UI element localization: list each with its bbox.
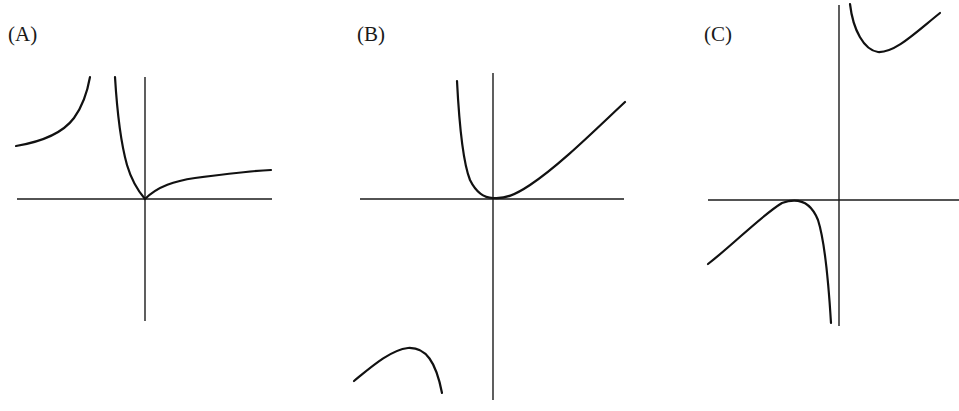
graph-b-upper-branch bbox=[457, 81, 625, 198]
graph-c-lower-branch bbox=[708, 201, 831, 323]
graphs-canvas bbox=[0, 0, 959, 411]
graph-a bbox=[16, 77, 272, 321]
graph-b-lower-branch bbox=[354, 348, 442, 393]
graph-a-right-branch bbox=[145, 170, 271, 199]
graph-c-upper-branch bbox=[850, 4, 940, 52]
graph-a-left-branch bbox=[16, 77, 90, 146]
graph-a-middle-branch bbox=[115, 77, 145, 199]
graph-b bbox=[354, 73, 625, 400]
graph-c bbox=[708, 4, 959, 326]
